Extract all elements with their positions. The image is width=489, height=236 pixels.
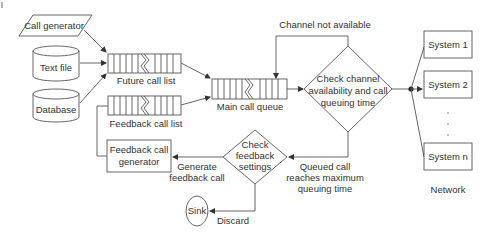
future-call-list-queue: Future call list — [108, 54, 181, 86]
arrow-future-to-main — [181, 63, 210, 78]
feedback-call-list-queue: Feedback call list — [108, 96, 183, 129]
channel-not-available-label: Channel not available — [279, 19, 370, 30]
check-channel-label-3: queuing time — [321, 97, 375, 108]
arrow-generator-to-future — [84, 30, 106, 52]
connector-generator-to-feedback-list — [97, 106, 108, 156]
check-feedback-decision: Check feedback settings — [223, 130, 287, 184]
check-feedback-label-3: settings — [239, 161, 272, 172]
arrow-discard-to-sink — [210, 184, 255, 211]
system-1-label: System 1 — [428, 39, 468, 50]
feedback-call-list-label: Feedback call list — [110, 118, 183, 129]
system-2-node: System 2 — [424, 71, 472, 98]
queued-call-label-2: reaches maximum — [286, 172, 364, 183]
call-generator-node: Call generator — [19, 15, 92, 36]
call-flow-diagram: Call generator Text file Database Future… — [0, 0, 489, 236]
system-n-label: System n — [428, 151, 468, 162]
sink-label: Sink — [188, 205, 207, 216]
future-call-list-label: Future call list — [117, 75, 176, 86]
feedback-generator-label-2: generator — [119, 156, 160, 167]
ellipsis-dots — [447, 112, 448, 135]
generate-label-1: Generate — [177, 161, 217, 172]
system-2-label: System 2 — [428, 79, 468, 90]
database-node: Database — [33, 89, 79, 122]
check-channel-label-1: Check channel — [317, 73, 380, 84]
text-file-label: Text file — [40, 62, 72, 73]
arrow-feedback-to-main — [181, 97, 210, 105]
line-to-system-n — [411, 89, 424, 157]
system-1-node: System 1 — [424, 31, 472, 58]
arrow-max-queuing-to-feedback-check — [289, 132, 348, 157]
feedback-call-generator-node: Feedback call generator — [107, 140, 171, 172]
sink-node: Sink — [186, 196, 208, 226]
main-call-queue-label: Main call queue — [217, 101, 284, 112]
feedback-generator-label-1: Feedback call — [110, 144, 169, 155]
check-channel-label-2: availability and call — [308, 85, 387, 96]
system-n-node: System n — [424, 143, 472, 170]
generate-label-2: feedback call — [169, 172, 224, 183]
line-to-system-1 — [411, 47, 424, 89]
discard-label: Discard — [217, 215, 249, 226]
check-feedback-label-1: Check — [242, 139, 269, 150]
check-channel-decision: Check channel availability and call queu… — [304, 46, 392, 132]
call-generator-label: Call generator — [24, 20, 84, 31]
main-call-queue: Main call queue — [212, 79, 287, 112]
check-feedback-label-2: feedback — [236, 150, 275, 161]
database-label: Database — [36, 104, 77, 115]
network-label: Network — [431, 184, 466, 195]
queued-call-label-3: queuing time — [298, 183, 352, 194]
queued-call-label-1: Queued call — [300, 161, 351, 172]
arrow-database-to-future — [80, 74, 106, 103]
text-file-node: Text file — [33, 46, 79, 81]
